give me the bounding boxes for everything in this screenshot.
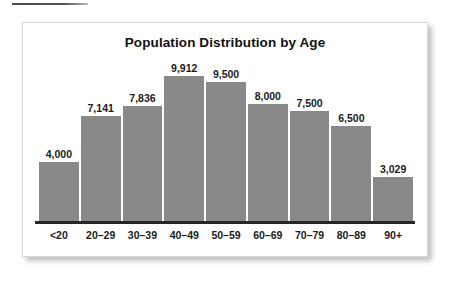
bar-value-label: 9,912 xyxy=(163,62,205,74)
chart-title: Population Distribution by Age xyxy=(23,35,427,50)
bar-value-label: 3,029 xyxy=(372,163,414,175)
plot-area: 4,000 7,141 7,836 9,912 9,500 8,000 xyxy=(38,57,414,221)
x-axis-tick-label: 40–49 xyxy=(163,229,205,241)
bar-group-7: 6,500 xyxy=(330,57,372,221)
bar-group-5: 8,000 xyxy=(247,57,289,221)
bar-rect xyxy=(330,126,372,221)
bar-rect xyxy=(122,106,164,221)
bar-group-2: 7,836 xyxy=(122,57,164,221)
bar-rect xyxy=(205,82,247,221)
bar-value-label: 4,000 xyxy=(38,148,80,160)
bar-value-label: 7,836 xyxy=(122,92,164,104)
x-axis-tick-label: 80–89 xyxy=(330,229,372,241)
x-axis-tick-label: 20–29 xyxy=(80,229,122,241)
bar-rect xyxy=(80,116,122,221)
x-axis-line xyxy=(35,221,415,224)
bar-value-label: 8,000 xyxy=(247,90,289,102)
top-rule-mark xyxy=(12,3,88,5)
bar-value-label: 7,500 xyxy=(289,97,331,109)
bar-value-label: 9,500 xyxy=(205,68,247,80)
bar-group-3: 9,912 xyxy=(163,57,205,221)
x-axis-labels: <20 20–29 30–39 40–49 50–59 60–69 70–79 … xyxy=(38,229,414,241)
bar-rect xyxy=(163,76,205,221)
bars-row: 4,000 7,141 7,836 9,912 9,500 8,000 xyxy=(38,57,414,221)
chart-panel: Population Distribution by Age 4,000 7,1… xyxy=(22,22,428,257)
x-axis-tick-label: 50–59 xyxy=(205,229,247,241)
x-axis-tick-label: 90+ xyxy=(372,229,414,241)
bar-group-4: 9,500 xyxy=(205,57,247,221)
bar-group-1: 7,141 xyxy=(80,57,122,221)
bar-rect xyxy=(289,111,331,221)
x-axis-tick-label: 60–69 xyxy=(247,229,289,241)
bar-value-label: 7,141 xyxy=(80,102,122,114)
bar-group-8: 3,029 xyxy=(372,57,414,221)
bar-group-6: 7,500 xyxy=(289,57,331,221)
x-axis-tick-label: 70–79 xyxy=(289,229,331,241)
bar-rect xyxy=(247,104,289,221)
bar-rect xyxy=(372,177,414,221)
bar-rect xyxy=(38,162,80,221)
bar-value-label: 6,500 xyxy=(330,112,372,124)
bar-group-0: 4,000 xyxy=(38,57,80,221)
x-axis-tick-label: <20 xyxy=(38,229,80,241)
x-axis-tick-label: 30–39 xyxy=(122,229,164,241)
